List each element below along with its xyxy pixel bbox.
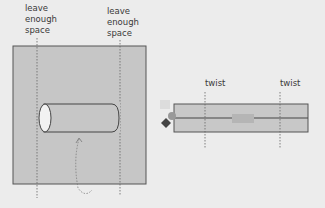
end-marker-diamond [161, 118, 171, 128]
diagram-canvas [0, 0, 325, 208]
end-marker-circle [168, 112, 176, 120]
rolled-tube-icon [39, 103, 120, 133]
end-marker-square [160, 100, 170, 109]
strip-highlight [232, 114, 254, 123]
